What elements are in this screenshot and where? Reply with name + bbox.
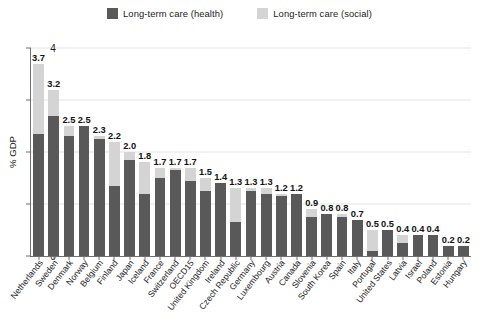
y-axis-title: % GDP [7,136,18,168]
bar-group: 3.73.22.52.52.32.22.01.81.71.71.71.51.41… [31,48,471,256]
bar-slot-portugal[interactable]: 0.5 [365,48,380,256]
bar-value-label: 0.8 [336,203,349,213]
bar-value-label: 1.2 [275,183,288,193]
x-label-slot: Hungary [456,258,471,322]
bar-segment-social [33,64,44,134]
bar-segment-social [139,162,150,193]
bar-slot-austria[interactable]: 1.2 [274,48,289,256]
bar-slot-poland[interactable]: 0.4 [425,48,440,256]
chart-container: Long-term care (health) Long-term care (… [0,0,479,322]
bar-netherlands[interactable]: 3.7 [33,64,44,256]
legend-label-health: Long-term care (health) [123,8,223,19]
bar-value-label: 1.5 [199,167,212,177]
bar-value-label: 0.7 [351,209,364,219]
bar-slot-belgium[interactable]: 2.3 [92,48,107,256]
bar-slot-sweden[interactable]: 3.2 [46,48,61,256]
bar-segment-health [33,134,44,256]
legend-swatch-social [257,8,268,19]
bar-slot-norway[interactable]: 2.5 [77,48,92,256]
bar-value-label: 2.0 [123,141,136,151]
bar-slot-united-states[interactable]: 0.5 [380,48,395,256]
bar-value-label: 3.2 [47,79,60,89]
bar-slot-spain[interactable]: 0.8 [334,48,349,256]
bar-slot-south-korea[interactable]: 0.8 [319,48,334,256]
bar-segment-social [306,209,317,217]
bar-value-label: 2.5 [62,115,75,125]
bar-segment-social [124,152,135,160]
bar-value-label: 1.7 [153,157,166,167]
bar-value-label: 1.3 [245,177,258,187]
bar-slot-ireland[interactable]: 1.4 [213,48,228,256]
legend-item-social: Long-term care (social) [257,8,372,19]
bar-segment-social [109,142,120,186]
bar-value-label: 1.2 [290,183,303,193]
bar-value-label: 0.4 [427,224,440,234]
bar-value-label: 1.7 [184,157,197,167]
bar-slot-estonia[interactable]: 0.2 [441,48,456,256]
bar-slot-hungary[interactable]: 0.2 [456,48,471,256]
bar-segment-social [200,178,211,191]
bar-slot-finland[interactable]: 2.2 [107,48,122,256]
bar-value-label: 3.7 [32,53,45,63]
bar-value-label: 2.5 [78,115,91,125]
bar-slot-japan[interactable]: 2.0 [122,48,137,256]
bar-slot-switzerland[interactable]: 1.7 [168,48,183,256]
bar-slot-latvia[interactable]: 0.4 [395,48,410,256]
bar-value-label: 1.3 [229,177,242,187]
chart-legend: Long-term care (health) Long-term care (… [0,8,479,19]
bar-segment-social [185,168,196,181]
bar-value-label: 1.8 [138,151,151,161]
bar-slot-slovenia[interactable]: 0.9 [304,48,319,256]
bar-value-label: 1.7 [169,157,182,167]
bar-slot-netherlands[interactable]: 3.7 [31,48,46,256]
bar-value-label: 1.4 [214,172,227,182]
legend-item-health: Long-term care (health) [107,8,223,19]
x-axis-labels: NetherlandsSwedenDenmarkNorwayBelgiumFin… [31,258,471,322]
bar-value-label: 0.8 [320,203,333,213]
bar-value-label: 0.5 [381,219,394,229]
bar-value-label: 2.3 [93,125,106,135]
bar-segment-social [64,126,75,136]
bar-value-label: 1.3 [260,177,273,187]
legend-label-social: Long-term care (social) [273,8,372,19]
bar-value-label: 2.2 [108,131,121,141]
legend-swatch-health [107,8,118,19]
bar-segment-social [155,168,166,178]
bar-slot-oecd15[interactable]: 1.7 [183,48,198,256]
bar-value-label: 0.9 [305,198,318,208]
bar-segment-social [48,90,59,116]
bar-slot-iceland[interactable]: 1.8 [137,48,152,256]
bar-slot-germany[interactable]: 1.3 [243,48,258,256]
bar-value-label: 0.5 [366,219,379,229]
bar-slot-france[interactable]: 1.7 [152,48,167,256]
